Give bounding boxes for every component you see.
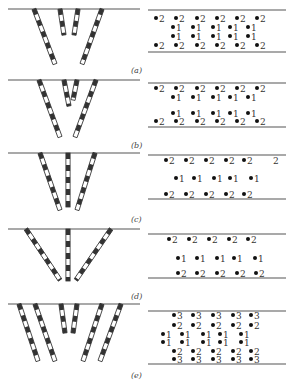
hole-dot [228, 25, 232, 29]
hole-dot [195, 86, 199, 90]
hole-number: 2 [220, 117, 226, 127]
hole-dot [231, 313, 235, 317]
panel-e: 333332222211111111112222233333 [8, 303, 286, 364]
hole-number: 2 [232, 235, 238, 245]
hole-number: 1 [220, 254, 226, 264]
hole-dot [195, 43, 199, 47]
hole-dot [171, 95, 175, 99]
hole-dot [249, 357, 253, 361]
hole-dot [231, 323, 235, 327]
hole-dot [154, 119, 158, 123]
hole-dot [242, 192, 246, 196]
hole-number: 1 [197, 174, 203, 184]
drill-hole [38, 152, 62, 210]
hole-number: 2 [240, 84, 246, 94]
hole-dot [239, 340, 243, 344]
hole-dot [180, 332, 184, 336]
drill-hole [72, 9, 80, 36]
hole-dot [224, 158, 228, 162]
hole-dot [253, 256, 257, 260]
drill-hole [58, 9, 66, 36]
hole-number: 2 [159, 41, 165, 51]
hole-dot [184, 192, 188, 196]
hole-dot [249, 313, 253, 317]
hole-number: 2 [240, 269, 246, 279]
hole-number: 2 [240, 14, 246, 24]
hole-number: 2 [169, 190, 175, 200]
hole-dot [231, 349, 235, 353]
hole-dot [255, 16, 259, 20]
hole-number: 1 [176, 93, 182, 103]
hole-dot [235, 16, 239, 20]
hole-dot [207, 237, 211, 241]
drill-hole [75, 152, 97, 210]
hole-number: 2 [192, 235, 198, 245]
hole-number: 1 [233, 32, 239, 42]
hole-dot [211, 34, 215, 38]
panel-caption-e: (e) [131, 371, 142, 380]
hole-number: 3 [196, 311, 202, 321]
hole-dot [172, 313, 176, 317]
hole-dot [204, 158, 208, 162]
hole-dot [164, 158, 168, 162]
hole-dot [218, 332, 222, 336]
hole-number: 2 [254, 321, 260, 331]
hole-dot [239, 332, 243, 336]
hole-dot [242, 158, 246, 162]
hole-number: 1 [251, 93, 257, 103]
hole-number: 3 [177, 355, 183, 365]
hole-number: 2 [216, 321, 222, 331]
hole-dot [235, 119, 239, 123]
hole-dot [161, 332, 165, 336]
hole-dot [211, 313, 215, 317]
hole-number: 1 [244, 338, 250, 348]
hole-number: 2 [229, 190, 235, 200]
hole-dot [195, 256, 199, 260]
hole-number: 2 [240, 117, 246, 127]
hole-dot [176, 256, 180, 260]
drill-hole [32, 8, 57, 64]
hole-number: 2 [251, 235, 257, 245]
hole-number: 2 [236, 321, 242, 331]
hole-number: 1 [200, 254, 206, 264]
hole-dot [171, 111, 175, 115]
hole-dot [231, 357, 235, 361]
hole-dot [235, 271, 239, 275]
hole-dot [195, 271, 199, 275]
hole-dot [174, 43, 178, 47]
hole-number: 2 [200, 117, 206, 127]
hole-dot [154, 16, 158, 20]
hole-number: 2 [179, 117, 185, 127]
hole-dot [174, 16, 178, 20]
panel-c: 2222221111122222 [8, 152, 286, 210]
hole-dot [249, 176, 253, 180]
hole-dot [195, 119, 199, 123]
hole-dot [191, 25, 195, 29]
hole-dot [201, 332, 205, 336]
hole-dot [212, 176, 216, 180]
hole-dot [172, 323, 176, 327]
hole-dot [215, 271, 219, 275]
hole-number: 1 [233, 93, 239, 103]
hole-number: 2 [200, 41, 206, 51]
hole-number: 1 [179, 174, 185, 184]
hole-dot [195, 16, 199, 20]
hole-number: 1 [258, 254, 264, 264]
hole-number: 1 [233, 109, 239, 119]
hole-number: 1 [237, 254, 243, 264]
hole-dot [218, 340, 222, 344]
hole-dot [228, 95, 232, 99]
hole-dot [246, 237, 250, 241]
hole-dot [211, 323, 215, 327]
hole-dot [215, 16, 219, 20]
hole-dot [215, 119, 219, 123]
hole-number: 2 [273, 156, 279, 166]
hole-number: 3 [216, 311, 222, 321]
hole-dot [174, 86, 178, 90]
hole-dot [176, 271, 180, 275]
hole-dot [191, 34, 195, 38]
hole-dot [255, 43, 259, 47]
drill-hole [62, 80, 71, 107]
hole-dot [167, 237, 171, 241]
hole-dot [227, 237, 231, 241]
